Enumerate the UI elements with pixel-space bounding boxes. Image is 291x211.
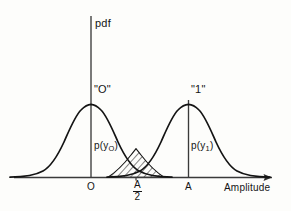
threshold-numerator: A xyxy=(133,180,142,190)
left-peak-label: "O" xyxy=(94,84,111,95)
right-density-main: p(y xyxy=(191,140,206,151)
left-density-main: p(y xyxy=(94,140,109,151)
left-density-label: p(yO) xyxy=(94,141,118,153)
threshold-denominator: 2 xyxy=(134,192,142,202)
y-axis-label: pdf xyxy=(95,18,111,29)
right-peak-label: "1" xyxy=(191,84,206,95)
pdf-figure: pdf "O" "1" p(yO) p(y1) O A 2 A Amplitud… xyxy=(0,0,291,211)
right-density-label: p(y1) xyxy=(191,141,213,153)
left-density-close: ) xyxy=(115,140,119,151)
x-axis-label: Amplitude xyxy=(224,183,270,193)
x-tick-amplitude-a: A xyxy=(185,182,192,192)
x-tick-zero: O xyxy=(87,182,95,192)
plot-canvas xyxy=(0,0,291,211)
x-tick-threshold: A 2 xyxy=(133,180,142,202)
right-density-close: ) xyxy=(210,140,214,151)
